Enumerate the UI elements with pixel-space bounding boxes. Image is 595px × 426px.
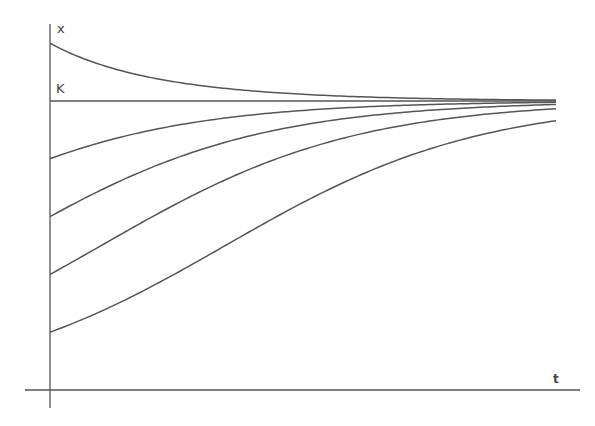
solution-curve xyxy=(50,121,556,332)
solution-curve xyxy=(50,43,556,100)
k-line-label: K xyxy=(56,81,65,96)
solution-curve xyxy=(50,104,556,216)
curve-group xyxy=(50,43,556,332)
solution-curve xyxy=(50,109,556,275)
logistic-growth-chart: x K t xyxy=(0,0,595,426)
y-axis-label: x xyxy=(57,21,65,36)
x-axis-label: t xyxy=(553,372,559,386)
